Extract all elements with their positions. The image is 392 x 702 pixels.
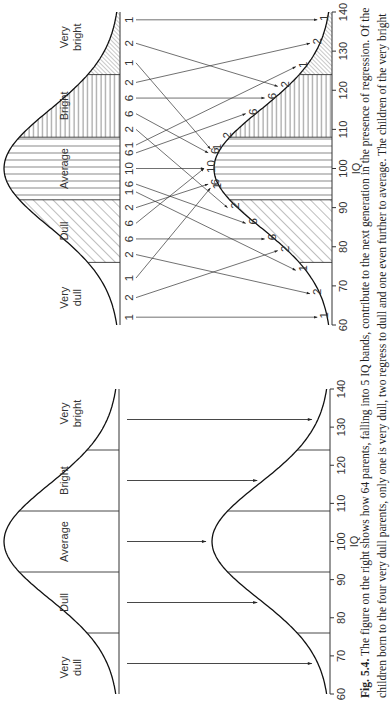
parent-count-label: 2 [123,294,135,300]
axis-tick-label: 110 [335,495,347,513]
regression-arrow [136,251,278,298]
parent-count-label: 6 [123,111,135,117]
regression-arrow [136,63,210,149]
child-count-label: 6 [266,93,278,99]
band-label: Bright [58,92,70,121]
child-count-label: 6 [209,179,221,185]
child-count-label: 1 [318,15,330,21]
band-shading-dull [230,200,332,263]
child-distribution-curve [212,389,327,694]
figure-number: Fig. 5.4. [359,659,372,698]
child-count-label: 2 [221,132,233,138]
band-label: Dull [58,222,70,241]
axis-tick-label: 130 [335,418,347,436]
child-count-label: 10 [205,160,217,173]
parent-count-label: 2 [123,79,135,85]
axis-tick-label: 130 [337,42,349,60]
axis-tick-label: 110 [337,121,349,139]
axis-tick-label: 70 [337,280,349,292]
band-label: Average [58,148,70,189]
regression-arrow [136,43,310,82]
parent-count-label: 6 [123,150,135,156]
parent-count-label: 6 [123,181,135,187]
child-count-label: 2 [311,38,323,44]
regression-arrow [136,188,210,278]
band-label-line: dull [71,289,83,306]
band-label-line: bright [71,24,83,52]
band-label: Bright [58,466,70,495]
caption-text-1: The figure on the right shows how 64 par… [359,8,372,656]
axis-tick-label: 90 [337,202,349,214]
child-count-label: 1 [318,312,330,318]
left-figure-no-regression: VerydullDullAverageBrightVerybright60708… [4,380,360,700]
parent-count-label: 1 [123,17,135,23]
child-count-label: 1 [297,265,309,271]
child-count-label: 6 [247,109,259,115]
band-label-line: Very [58,286,70,309]
parent-count-label: 2 [123,40,135,46]
parent-count-label: 1 [123,142,135,148]
band-label-line: Very [58,402,70,425]
regression-arrow [136,255,310,294]
parent-count-label: 6 [123,220,135,226]
band-label: Verydull [58,286,83,309]
band-label: Verybright [58,24,83,52]
parent-count-label: 1 [123,275,135,281]
child-count-label: 1 [211,144,223,150]
band-label-line: dull [71,659,83,676]
axis-tick-label: 80 [337,241,349,253]
regression-diagram: VerydullDullAverageBrightVerybright60708… [0,0,392,702]
band-label-line: Very [58,26,70,49]
axis-tick-label: 140 [335,380,347,398]
band-label-line: Dull [58,593,70,612]
parent-count-label: 2 [123,126,135,132]
child-count-label: 2 [229,202,241,208]
band-label: Dull [58,593,70,612]
child-count-label: 2 [279,81,291,87]
band-shading-average [214,137,332,200]
figure-page: VerydullDullAverageBrightVerybright60708… [0,0,392,702]
axis-tick-label: 70 [335,650,347,662]
axis-tick-label: 60 [337,319,349,331]
child-count-label: 1 [297,62,309,68]
caption-line-2: children born to the four very dull pare… [374,0,391,698]
caption-line-1: Fig. 5.4. The figure on the right shows … [357,0,374,698]
figure-caption: Fig. 5.4. The figure on the right shows … [357,0,391,698]
band-label-line: Average [58,521,70,562]
child-count-label: 6 [266,234,278,240]
band-label: Verybright [58,400,83,428]
regression-arrow [136,169,204,224]
axis-tick-label: 60 [335,688,347,700]
axis-tick-label: 120 [337,81,349,99]
child-count-label: 6 [247,218,259,224]
band-label: Verydull [58,656,83,679]
parent-count-label: 1 [123,60,135,66]
axis-tick-label: 140 [337,3,349,21]
axis-tick-label: 80 [335,612,347,624]
band-label-line: Bright [58,92,70,121]
band-label-line: Very [58,656,70,679]
axis-tick-label: 120 [335,456,347,474]
band-label-line: Bright [58,466,70,495]
parent-count-label: 2 [123,251,135,257]
axis-tick-label: 90 [335,574,347,586]
child-count-label: 2 [279,245,291,251]
right-figure-with-regression: VerydullDullAverageBrightVerybright60708… [4,3,362,331]
regression-arrow [136,43,278,86]
band-label-line: bright [71,400,83,428]
parent-count-label: 6 [123,95,135,101]
parent-count-label: 1 [123,189,135,195]
parent-count-label: 6 [123,236,135,242]
band-label-line: Dull [58,222,70,241]
band-label: Average [58,521,70,562]
axis-tick-label: 100 [335,532,347,550]
parent-count-label: 10 [123,162,135,175]
parent-count-label: 1 [123,314,135,320]
child-count-label: 2 [311,288,323,294]
band-label-line: Average [58,148,70,189]
axis-tick-label: 100 [337,159,349,177]
parent-count-label: 2 [123,204,135,210]
